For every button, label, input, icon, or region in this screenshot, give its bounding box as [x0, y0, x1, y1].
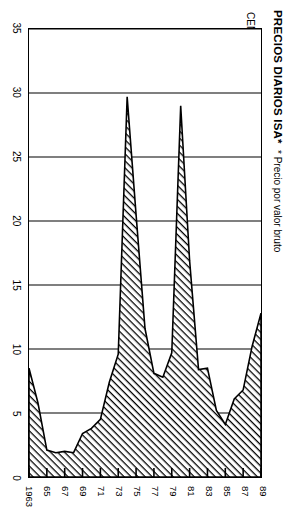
chart-footnote: * Precio por valor bruto	[272, 150, 283, 252]
year-tick-label: 73	[114, 486, 125, 497]
year-tick-label: 1963	[24, 486, 35, 507]
chart-title: PRECIOS DIARIOS ISA*	[272, 10, 284, 144]
year-tick-label: 81	[186, 486, 197, 497]
year-tick-label: 69	[78, 486, 89, 497]
value-tick-label: 30	[11, 80, 22, 104]
area-series-fill	[29, 97, 261, 477]
area-chart-svg	[29, 29, 261, 477]
plot-area	[28, 28, 262, 478]
year-tick-label: 83	[204, 486, 215, 497]
year-tick-label: 77	[150, 486, 161, 497]
year-tick-label: 89	[258, 486, 269, 497]
value-tick-label: 0	[11, 466, 22, 490]
value-tick-label: 10	[11, 337, 22, 361]
year-tick-label: 85	[222, 486, 233, 497]
year-tick-label: 75	[132, 486, 143, 497]
value-tick-label: 5	[11, 402, 22, 426]
year-tick-label: 79	[168, 486, 179, 497]
value-tick-label: 25	[11, 145, 22, 169]
year-tick-label: 71	[96, 486, 107, 497]
value-tick-label: 15	[11, 273, 22, 297]
value-tick-label: 20	[11, 209, 22, 233]
year-tick-label: 65	[42, 486, 53, 497]
year-tick-label: 87	[240, 486, 251, 497]
value-tick-label: 35	[11, 16, 22, 40]
year-tick-label: 67	[60, 486, 71, 497]
